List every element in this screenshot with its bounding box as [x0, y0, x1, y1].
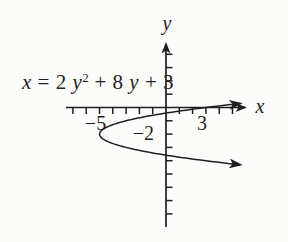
equation-label: x = 2 y2 + 8 y + 3 [22, 71, 174, 99]
equation-part: x [22, 70, 32, 94]
figure-canvas: −5−23 x y x = 2 y2 + 8 y + 3 [0, 0, 288, 242]
tick-label-y-neg2: −2 [133, 122, 154, 144]
tick-label-x-neg5: −5 [85, 112, 106, 134]
equation-part: + 8 [89, 70, 130, 94]
equation-part: y [72, 70, 82, 94]
x-axis-label: x [255, 95, 265, 117]
equation-part: + 3 [139, 70, 174, 94]
graph-svg: −5−23 x y [0, 0, 288, 242]
y-axis-label: y [161, 12, 172, 35]
tick-label-x-3: 3 [197, 112, 207, 134]
equation-part: y [129, 70, 139, 94]
equation-part: = 2 [32, 70, 73, 94]
